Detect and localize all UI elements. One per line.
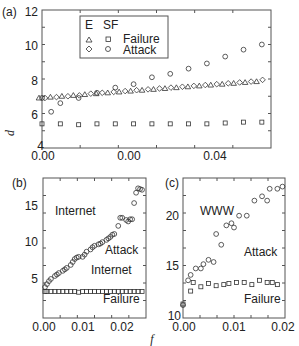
legend-attack-label: Attack	[123, 43, 157, 57]
triangle-data-point	[197, 83, 203, 88]
diamond-data-point	[214, 81, 220, 87]
panel-c-xtick-1: 0.01	[222, 320, 246, 334]
panel-b-annotation-internet-bottom: Internet	[91, 263, 132, 277]
circle-data-point	[224, 223, 229, 228]
square-data-point	[89, 289, 93, 293]
square-data-point	[205, 122, 209, 126]
square-data-point	[265, 280, 269, 284]
panel-b-annotation-attack: Attack	[105, 243, 139, 257]
panel-a-xtick-1: 0.00	[117, 149, 141, 163]
circle-data-point	[275, 186, 280, 191]
panel-b-ytick-15: 15	[25, 199, 39, 213]
triangle-data-point	[231, 81, 237, 86]
circle-data-point	[267, 186, 272, 191]
square-data-point	[93, 289, 97, 293]
diamond-data-point	[88, 91, 94, 97]
diamond-data-point	[191, 83, 197, 89]
square-data-point	[77, 290, 81, 294]
triangle-data-point	[208, 82, 214, 87]
panel-c-xtick-0: 0.00	[172, 320, 196, 334]
square-data-point	[168, 122, 172, 126]
circle-data-point	[259, 42, 264, 47]
diamond-data-point	[65, 93, 71, 99]
panel-a-ytick-12: 12	[25, 5, 39, 19]
x-axis-label: f	[150, 332, 155, 346]
circle-data-point	[186, 278, 191, 283]
square-data-point	[207, 282, 211, 286]
circle-data-point	[265, 198, 270, 203]
circle-data-point	[237, 213, 242, 218]
diamond-data-point	[260, 77, 266, 83]
square-data-point	[65, 289, 69, 293]
circle-data-point	[168, 71, 173, 76]
diamond-data-point	[122, 88, 128, 94]
square-data-point	[258, 278, 262, 282]
panel-c-ytick-15: 15	[166, 259, 180, 273]
panel-a-xtick-0: 0.00	[31, 149, 55, 163]
square-data-point	[58, 122, 62, 126]
triangle-data-point	[254, 79, 260, 84]
triangle-data-point	[128, 88, 134, 93]
circle-data-point	[204, 61, 209, 66]
square-data-point	[223, 121, 227, 125]
panel-c-annotation-attack: Attack	[244, 245, 278, 259]
square-data-point	[242, 120, 246, 124]
square-data-point	[95, 122, 99, 126]
panel-b-label: (b)	[12, 176, 27, 190]
square-data-point	[242, 280, 246, 284]
circle-data-point	[132, 201, 137, 206]
square-data-point	[214, 284, 218, 288]
circle-data-point	[201, 262, 206, 267]
panel-c-annotation-failure: Failure	[244, 292, 281, 306]
square-data-point	[187, 122, 191, 126]
diamond-data-point	[157, 86, 163, 92]
circle-data-point	[193, 266, 198, 271]
square-data-point	[260, 120, 264, 124]
square-data-point	[61, 289, 65, 293]
diamond-data-point	[134, 87, 140, 93]
square-data-point	[49, 289, 53, 293]
triangle-data-point	[48, 94, 54, 99]
circle-data-point	[49, 109, 54, 114]
square-data-point	[199, 285, 203, 289]
legend-header-sf: SF	[103, 18, 118, 32]
triangle-data-point	[105, 90, 111, 95]
panel-b-xtick-0: 0.00	[32, 320, 56, 334]
panel-b: (b) 15 10 5 0.00 0.01 0.02 Internet Atta…	[12, 176, 146, 334]
figure-canvas: (a) 12 10 8 6 4 0.00 0.00 0.04 E SF Fail…	[0, 0, 299, 346]
square-data-point	[140, 289, 144, 293]
diamond-data-point	[99, 90, 105, 96]
triangle-data-point	[162, 86, 168, 91]
triangle-data-point	[151, 87, 157, 92]
diamond-data-point	[203, 82, 209, 88]
panel-a-ytick-10: 10	[25, 39, 39, 53]
circle-data-point	[260, 194, 265, 199]
triangle-data-point	[116, 89, 122, 94]
circle-data-point	[232, 225, 237, 230]
diamond-data-point	[225, 81, 231, 87]
square-data-point	[222, 283, 226, 287]
triangle-data-point	[71, 93, 77, 98]
triangle-data-point	[82, 92, 88, 97]
circle-data-point	[188, 273, 193, 278]
circle-data-point	[223, 54, 228, 59]
circle-data-point	[252, 198, 257, 203]
square-data-point	[81, 289, 85, 293]
panel-a: (a) 12 10 8 6 4 0.00 0.00 0.04 E SF Fail…	[2, 5, 271, 163]
square-data-point	[113, 122, 117, 126]
panel-a-legend: E SF Failure Attack	[80, 16, 168, 58]
panel-b-annotation-failure: Failure	[103, 292, 140, 306]
panel-c: (c) 20 15 10 0.00 0.01 0.02 WWW Attack F…	[165, 176, 295, 334]
square-data-point	[250, 283, 254, 287]
square-data-point	[85, 289, 89, 293]
diamond-data-point	[237, 80, 243, 86]
circle-data-point	[116, 223, 121, 228]
legend-header-e: E	[85, 18, 93, 32]
diamond-data-point	[54, 94, 60, 100]
diamond-data-point	[180, 84, 186, 90]
panel-b-xtick-1: 0.01	[71, 320, 95, 334]
square-data-point	[275, 283, 279, 287]
panel-b-xtick-2: 0.02	[110, 320, 134, 334]
square-data-point	[227, 282, 231, 286]
panel-a-label: (a)	[2, 5, 17, 19]
